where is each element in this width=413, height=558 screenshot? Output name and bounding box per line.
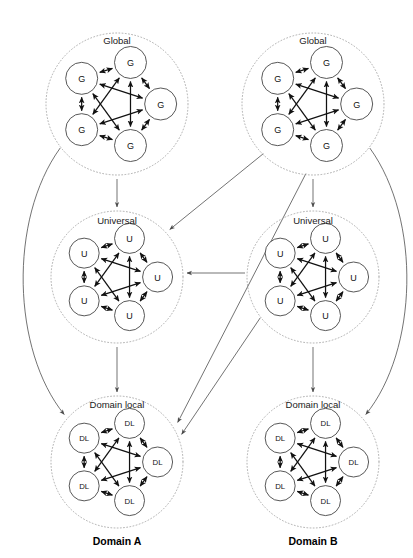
node-label: DL [321,419,332,428]
node-label: G [353,100,360,110]
node-u-1[interactable]: U [265,286,295,316]
node-label: U [322,234,329,244]
cluster-title: Domain local [90,399,145,410]
node-label: U [277,296,284,306]
node-label: G [78,74,85,84]
node-label: G [274,74,281,84]
node-link [338,119,346,130]
link-b-global-to-a-universal [170,154,263,230]
node-u-2[interactable]: U [265,238,295,268]
node-link [296,136,309,140]
node-g-4[interactable]: G [114,46,146,78]
node-dl-1[interactable]: DL [265,471,295,501]
node-dl-3[interactable]: DL [311,486,341,516]
cluster-title: Global [103,35,130,46]
node-label: U [81,249,88,259]
node-link [142,78,150,89]
cluster-title: Universal [293,215,333,226]
node-dl-3[interactable]: DL [115,486,145,516]
node-link [101,491,112,495]
node-link [297,429,308,433]
node-u-1[interactable]: U [69,286,99,316]
diagram-canvas: GGGGGGlobalUUUUUUniversalDLDLDLDLDLDomai… [0,0,413,558]
node-label: DL [321,497,332,506]
cluster-title: Domain local [286,399,341,410]
node-link [140,438,147,447]
node-label: G [127,141,134,151]
node-g-1[interactable]: G [262,114,294,146]
node-link [140,292,147,301]
node-label: DL [275,482,286,491]
node-label: DL [153,458,164,467]
domain-label-domain-a: Domain A [93,535,142,547]
node-g-1[interactable]: G [66,114,98,146]
node-label: G [323,58,330,68]
node-label: G [127,58,134,68]
node-dl-2[interactable]: DL [69,423,99,453]
node-link [296,68,309,72]
node-label: DL [349,458,360,467]
node-link [142,119,150,130]
node-label: U [154,273,161,283]
cluster-a-global[interactable]: GGGGGGlobal [46,33,188,175]
node-label: G [157,100,164,110]
node-dl-1[interactable]: DL [69,471,99,501]
node-g-2[interactable]: G [66,62,98,94]
node-label: G [78,125,85,135]
node-u-4[interactable]: U [115,223,145,253]
node-link [336,292,343,301]
clusters: GGGGGGlobalUUUUUUniversalDLDLDLDLDLDomai… [46,33,384,528]
node-g-5[interactable]: G [145,88,177,120]
node-u-3[interactable]: U [115,301,145,331]
node-dl-2[interactable]: DL [265,423,295,453]
node-link [297,491,308,495]
node-label: U [81,296,88,306]
link-b-universal-to-a-domain-local [182,318,261,434]
cluster-title: Universal [97,215,137,226]
cluster-title: Global [299,35,326,46]
link-b-global-to-b-domain-local [366,148,407,414]
node-dl-4[interactable]: DL [115,408,145,438]
node-link [101,306,112,310]
cluster-a-universal[interactable]: UUUUUUniversal [51,211,183,343]
cluster-b-universal[interactable]: UUUUUUniversal [247,211,379,343]
cluster-a-domain-local[interactable]: DLDLDLDLDLDomain local [51,396,183,528]
node-label: U [350,273,357,283]
node-g-2[interactable]: G [262,62,294,94]
node-g-3[interactable]: G [310,130,342,162]
node-link [336,253,343,262]
node-label: DL [79,482,90,491]
node-link [140,253,147,262]
node-link [100,136,113,140]
node-link [100,68,113,72]
node-link [297,306,308,310]
node-link [297,244,308,248]
node-dl-5[interactable]: DL [143,447,173,477]
node-link [101,429,112,433]
link-a-global-to-a-domain-local [23,148,64,414]
node-g-3[interactable]: G [114,130,146,162]
node-label: DL [275,434,286,443]
node-u-5[interactable]: U [143,262,173,292]
node-dl-5[interactable]: DL [339,447,369,477]
node-label: DL [125,497,136,506]
domain-label-domain-b: Domain B [288,535,337,547]
node-label: U [126,311,133,321]
node-u-4[interactable]: U [311,223,341,253]
node-label: DL [79,434,90,443]
node-u-3[interactable]: U [311,301,341,331]
node-link [101,244,112,248]
node-dl-4[interactable]: DL [311,408,341,438]
node-g-5[interactable]: G [341,88,373,120]
node-link [140,477,147,486]
node-link [336,438,343,447]
node-label: U [277,249,284,259]
node-label: U [322,311,329,321]
node-link [336,477,343,486]
node-u-2[interactable]: U [69,238,99,268]
node-u-5[interactable]: U [339,262,369,292]
node-g-4[interactable]: G [310,46,342,78]
domain-labels: Domain ADomain B [93,535,338,547]
cluster-b-domain-local[interactable]: DLDLDLDLDLDomain local [247,396,379,528]
node-label: U [126,234,133,244]
